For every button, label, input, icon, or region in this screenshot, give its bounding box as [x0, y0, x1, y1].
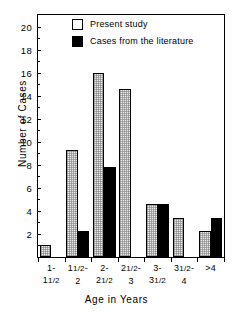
y-tick-label-18: 18: [0, 45, 37, 55]
bar-literature: [78, 231, 90, 258]
bar-present-study: [173, 218, 185, 257]
bar-present-study: [93, 73, 105, 257]
bar-group: [91, 15, 118, 257]
bar-literature: [158, 204, 170, 257]
y-tick-label-2: 2: [0, 229, 37, 239]
x-axis-title: Age in Years: [0, 294, 233, 305]
bar-chart-figure: Present study Cases from the literature …: [0, 0, 233, 316]
y-tick-label-4: 4: [0, 206, 37, 216]
bar-group: [171, 15, 198, 257]
bar-group: [65, 15, 92, 257]
y-tick-label-10: 10: [0, 137, 37, 147]
bar-literature: [104, 167, 116, 257]
y-tick-label-8: 8: [0, 160, 37, 170]
bar-present-study: [66, 150, 78, 257]
bar-present-study: [199, 231, 211, 258]
bar-group: [144, 15, 171, 257]
y-tick-label-14: 14: [0, 91, 37, 101]
y-tick-label-12: 12: [0, 114, 37, 124]
bar-present-study: [119, 89, 131, 257]
y-tick-label-16: 16: [0, 68, 37, 78]
bar-present-study: [40, 245, 52, 257]
bars-container: [38, 15, 224, 257]
bar-group: [38, 15, 65, 257]
bar-present-study: [146, 204, 158, 257]
y-tick-label-6: 6: [0, 183, 37, 193]
bar-group: [118, 15, 145, 257]
bar-group: [197, 15, 224, 257]
bar-literature: [211, 218, 223, 257]
y-tick-label-20: 20: [0, 22, 37, 32]
x-tick-label: >4: [191, 262, 230, 274]
